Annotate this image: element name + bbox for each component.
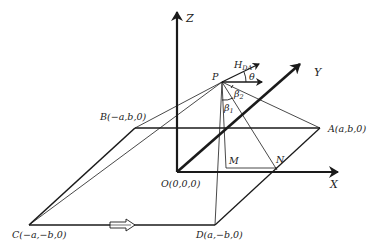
line-PD [215, 82, 222, 225]
base-plane [29, 128, 320, 225]
beta1-arc [222, 98, 233, 100]
point-B-label: B(−a,b,0) [99, 111, 146, 122]
point-A-label: A(a,b,0) [327, 123, 366, 134]
y-axis-label: Y [314, 66, 323, 79]
edge-DA [215, 128, 320, 225]
line-PC [29, 82, 222, 225]
beta1-label: β1 [223, 102, 234, 115]
point-N-label: N [275, 154, 285, 165]
point-P-label: P [211, 71, 219, 82]
diagram-canvas: Z X Y P HDA θ β2 β1 B(−a,b,0) A(a,b,0) O… [0, 0, 376, 252]
origin-label: O(0,0,0) [161, 178, 201, 189]
theta-label: θ [249, 71, 255, 82]
point-C-label: C(−a,−b,0) [12, 229, 67, 240]
theta-arc [244, 72, 246, 82]
axes [177, 12, 338, 172]
x-axis-label: X [329, 178, 339, 191]
point-M-label: M [228, 155, 239, 166]
point-D-label: D(a,−b,0) [195, 229, 243, 240]
beta2-label: β2 [233, 88, 244, 101]
direction-arrow-icon [110, 219, 135, 231]
edge-BC [29, 128, 135, 225]
z-axis-label: Z [185, 12, 194, 25]
line-PB [135, 82, 222, 128]
line-PM [222, 82, 226, 168]
